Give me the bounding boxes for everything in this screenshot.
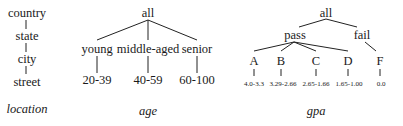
location-level-street: street (13, 76, 40, 89)
gpa-root: all (320, 7, 333, 20)
gpa-caption: gpa (307, 105, 326, 118)
location-level-country: country (8, 7, 46, 20)
age-range-senior: 60-100 (179, 74, 214, 87)
age-root: all (142, 7, 155, 20)
age-group-senior: senior (182, 43, 213, 56)
gpa-grade-b: B (277, 55, 285, 68)
age-caption: age (139, 105, 157, 118)
gpa-category-pass: pass (284, 29, 306, 42)
gpa-grade-c: C (312, 55, 320, 68)
gpa-range-a: 4.0-3.3 (244, 81, 264, 88)
location-caption: location (7, 103, 48, 116)
gpa-range-d: 1.65-1.00 (336, 81, 363, 88)
gpa-category-fail: fail (354, 29, 371, 42)
age-range-young: 20-39 (82, 74, 111, 87)
gpa-grade-a: A (249, 55, 258, 68)
location-level-city: city (18, 53, 37, 66)
gpa-range-b: 3.29-2.66 (270, 81, 297, 88)
age-group-young: young (81, 43, 112, 56)
gpa-range-f: 0.0 (377, 81, 386, 88)
location-level-state: state (16, 30, 39, 43)
gpa-grade-d: D (343, 55, 352, 68)
age-group-middle-aged: middle-aged (117, 43, 179, 56)
gpa-range-c: 2.65-1.66 (303, 81, 330, 88)
gpa-grade-f: F (377, 55, 384, 68)
age-range-middle-aged: 40-59 (133, 74, 162, 87)
